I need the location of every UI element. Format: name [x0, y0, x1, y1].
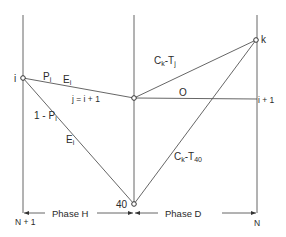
phase-h-label: Phase H: [52, 208, 89, 219]
j-equals-label: j = i + 1: [71, 94, 100, 104]
node-i-label: i: [14, 73, 16, 84]
node-k: [254, 38, 259, 43]
network-diagram: i k 40 Pi Ei j = i + 1 1 - Pi Ei Ck-Tj O…: [0, 0, 286, 237]
node-40: [132, 202, 137, 207]
edge-j-i1: [134, 98, 257, 99]
edge-j-i1-label: O: [179, 87, 187, 98]
edge-i-j-prob-label: Pi: [43, 71, 52, 83]
edge-j-k: [134, 40, 256, 98]
n-label: N: [254, 218, 260, 228]
n-plus-1-label: N + 1: [15, 217, 36, 227]
edge-40-k-label: Ck-T40: [174, 151, 202, 163]
node-j: [132, 96, 137, 101]
edge-i-40-prob-label: 1 - Pi: [34, 110, 57, 122]
i-plus-1-label: i + 1: [258, 95, 275, 105]
edge-40-k: [134, 40, 256, 204]
node-i: [21, 76, 26, 81]
node-40-label: 40: [116, 199, 128, 210]
phase-d-label: Phase D: [165, 208, 202, 219]
edge-j-k-label: Ck-Tj: [154, 55, 176, 68]
edge-i-j-cost-label: Ei: [63, 74, 72, 86]
node-k-label: k: [261, 34, 267, 45]
